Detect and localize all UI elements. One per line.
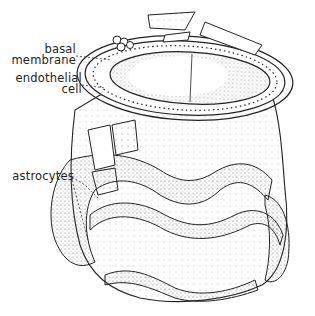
label-cell: cell bbox=[2, 84, 82, 95]
label-basal-membrane: basal membrane bbox=[2, 44, 76, 66]
label-endothelial-cell: endothelial cell bbox=[2, 73, 82, 95]
label-membrane: membrane bbox=[2, 55, 76, 66]
label-astrocytes: astrocytes bbox=[2, 171, 74, 182]
